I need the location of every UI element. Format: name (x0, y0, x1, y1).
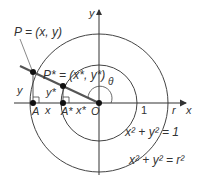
label-r: r (172, 104, 177, 116)
label-x-segment: x (44, 104, 51, 116)
label-one: 1 (141, 104, 147, 116)
label-y-segment: y (16, 84, 24, 96)
label-big-circle-equation: x² + y² = r² (128, 153, 185, 167)
label-x-axis: x (185, 104, 192, 116)
point-P (30, 69, 36, 75)
leader-P (20, 39, 32, 70)
label-ystar-segment: y* (45, 86, 57, 98)
similar-triangles-diagram: P = (x, y) P* = (x*, y*) y x θ O A A* x … (0, 0, 200, 181)
point-Pstar (60, 83, 66, 89)
label-theta: θ (108, 76, 114, 87)
label-xstar-segment: x* (75, 104, 87, 116)
label-y-axis: y (88, 7, 96, 19)
label-Pstar: P* = (x*, y*) (43, 68, 105, 82)
label-origin: O (91, 105, 100, 117)
label-unit-circle-equation: x² + y² = 1 (124, 125, 179, 139)
label-Astar: A* (60, 105, 73, 117)
label-A: A (31, 105, 39, 117)
label-P: P = (x, y) (14, 25, 62, 39)
